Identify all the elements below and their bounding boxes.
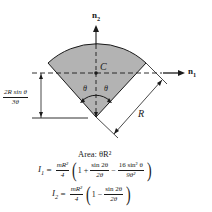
area-formula: Area: θR² (78, 150, 111, 159)
i1-frac1: sin 2θ2θ (90, 162, 109, 179)
sector-shape (48, 44, 146, 117)
i1-frac2: 16 sin² θ9θ² (118, 162, 144, 179)
i2-coef-den: 4 (75, 195, 79, 203)
i1-paren-close: ) (147, 160, 152, 180)
i2-coef: mR²4 (70, 186, 83, 203)
n2-label-sub: 2 (97, 15, 100, 22)
centroid-dot (94, 71, 98, 75)
i1-op: − (111, 166, 116, 175)
i2-equals: = (58, 189, 68, 199)
n1-arrowhead-icon (178, 70, 185, 76)
offset-numerator: 2R sin θ (3, 89, 28, 98)
i2-frac1-num: sin 2θ (104, 186, 123, 195)
i2-paren-open: ( (86, 184, 91, 204)
i1-paren-open: ( (72, 160, 77, 180)
offset-arrow-bottom-icon (39, 112, 43, 117)
n1-label-sub: 1 (193, 71, 196, 78)
radius-label: R (138, 109, 144, 119)
offset-denominator: 3θ (12, 98, 19, 106)
i2-formula: I2 = mR²4 ( 1 − sin 2θ2θ ) (52, 184, 132, 204)
n2-label: n2 (92, 11, 100, 22)
sector-diagram (0, 0, 212, 212)
i2-paren-close: ) (126, 184, 131, 204)
angle-label-left: θ (83, 85, 87, 93)
i1-coef-den: 4 (61, 171, 65, 179)
r-extension-line-bottom (96, 117, 118, 138)
centroid-label: C (100, 62, 107, 72)
i1-frac1-num: sin 2θ (90, 162, 109, 171)
i2-frac1: sin 2θ2θ (104, 186, 123, 203)
i1-coef-num: mR² (56, 162, 69, 171)
i2-term1: 1 − (92, 190, 103, 199)
i2-coef-num: mR² (70, 186, 83, 195)
i1-coef: mR²4 (56, 162, 69, 179)
i1-term1: 1 + (78, 166, 89, 175)
angle-label-right: θ (104, 85, 108, 93)
n1-label: n1 (188, 67, 196, 78)
n2-arrowhead-icon (93, 25, 99, 32)
i2-frac1-den: 2θ (110, 195, 117, 203)
i1-frac2-num: 16 sin² θ (118, 162, 144, 171)
i1-formula: I1 = mR²4 ( 1 + sin 2θ2θ − 16 sin² θ9θ² … (38, 160, 152, 180)
i1-frac1-den: 2θ (96, 171, 103, 179)
offset-dimension-label: 2R sin θ 3θ (3, 89, 28, 106)
i1-frac2-den: 9θ² (126, 171, 135, 179)
i1-equals: = (44, 165, 54, 175)
offset-arrow-top-icon (39, 74, 43, 79)
